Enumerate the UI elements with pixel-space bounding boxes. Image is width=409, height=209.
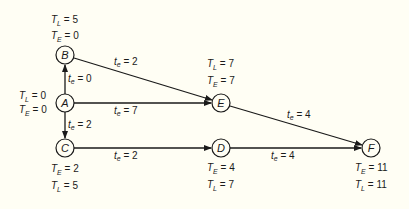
edge-label-e-f: te = 4 xyxy=(287,109,311,121)
node-d-tl: TL = 7 xyxy=(207,179,234,192)
edge-label-a-e: te = 7 xyxy=(114,105,138,117)
node-c-te: TE = 2 xyxy=(51,163,79,176)
edge-label-a-c: te = 2 xyxy=(68,119,92,131)
node-c-tl: TL = 5 xyxy=(51,180,78,193)
node-a: A xyxy=(56,94,74,112)
node-b-label: B xyxy=(61,49,68,61)
edge-label-a-b: te = 0 xyxy=(68,73,92,85)
node-f: F xyxy=(362,139,380,157)
edge-label-c-d: te = 2 xyxy=(114,150,138,162)
network-diagram: te = 0 te = 2 te = 7 te = 2 te = 2 te = … xyxy=(0,0,409,209)
node-b: B xyxy=(56,46,74,64)
edge-label-d-f: te = 4 xyxy=(271,150,295,162)
node-b-te: TE = 0 xyxy=(51,30,79,43)
node-f-te: TE = 11 xyxy=(355,162,388,175)
node-e-te: TE = 7 xyxy=(207,75,235,88)
node-d: D xyxy=(212,139,230,157)
node-c-label: C xyxy=(61,142,69,154)
node-a-tl: TL = 0 xyxy=(19,90,46,103)
node-b-tl: TL = 5 xyxy=(51,14,78,27)
node-a-te: TE = 0 xyxy=(19,104,47,117)
node-e: E xyxy=(212,94,230,112)
node-a-label: A xyxy=(60,97,68,109)
edge-label-b-e: te = 2 xyxy=(114,56,138,68)
edge-b-e xyxy=(74,58,212,100)
node-f-tl: TL = 11 xyxy=(355,179,387,192)
node-d-te: TE = 4 xyxy=(207,162,235,175)
node-d-label: D xyxy=(217,142,225,154)
node-e-tl: TL = 7 xyxy=(207,58,234,71)
edge-labels: te = 0 te = 2 te = 7 te = 2 te = 2 te = … xyxy=(68,56,311,162)
node-c: C xyxy=(56,139,74,157)
node-e-label: E xyxy=(217,97,225,109)
